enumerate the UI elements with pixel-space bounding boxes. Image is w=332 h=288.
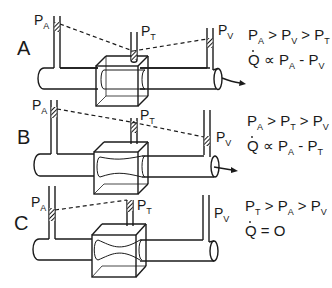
gauge-pv-a [207, 28, 213, 70]
chamber-a [96, 56, 148, 106]
panel-c [33, 186, 218, 277]
gauge-pa-a [54, 16, 60, 68]
panel-label-c: C [14, 212, 28, 234]
flow-arrow-b [214, 167, 232, 170]
relation-b-flow: Q ∝ PA - PT [247, 137, 323, 157]
gauge-pa-b [51, 100, 57, 154]
label-pt-a: PT [141, 23, 156, 42]
gauge-pt-c [127, 200, 133, 226]
gauge-pa-c [49, 186, 55, 239]
panel-b [34, 100, 238, 194]
starling-resistor-diagram: A PA PT PV PA > PV > PT Q ∝ PA - PV [0, 0, 332, 288]
relation-a-flow: Q ∝ PA - PV [248, 51, 324, 71]
label-pt-b: PT [140, 107, 155, 126]
label-pt-c: PT [137, 197, 152, 216]
gauge-pv-b [204, 110, 210, 157]
relation-c-order: PT > PA > PV [245, 197, 327, 217]
panel-label-a: A [17, 37, 31, 59]
flow-arrow-a [222, 78, 240, 83]
pressure-gradient-a [60, 24, 207, 51]
chamber-b [94, 142, 148, 194]
gauge-pt-a [131, 32, 137, 62]
panel-label-b: B [17, 126, 30, 148]
label-pv-a: PV [218, 22, 233, 41]
label-pa-a: PA [34, 12, 49, 31]
label-pv-b: PV [216, 129, 231, 148]
relation-b-order: PA > PT > PV [247, 112, 329, 132]
gauge-pt-b [131, 118, 137, 144]
chamber-c [92, 224, 146, 277]
pressure-gradient-c [55, 200, 127, 210]
label-pa-b: PA [32, 97, 47, 116]
gauge-pv-c [203, 195, 209, 242]
relation-a-order: PA > PV > PT [248, 26, 330, 46]
label-pv-c: PV [214, 205, 229, 224]
label-pa-c: PA [31, 194, 46, 213]
relation-c-flow: Q = O [245, 222, 285, 239]
